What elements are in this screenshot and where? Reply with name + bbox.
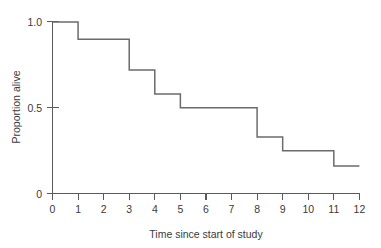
y-tick-label-1.0: 1.0: [27, 16, 42, 28]
x-tick-label-5: 5: [177, 203, 183, 215]
y-tick-label-0.5: 0.5: [27, 102, 42, 114]
x-axis-title: Time since start of study: [149, 228, 263, 240]
x-tick-label-11: 11: [328, 203, 339, 215]
x-tick-label-3: 3: [126, 203, 132, 215]
x-tick-label-9: 9: [280, 203, 286, 215]
x-tick-label-1: 1: [75, 203, 81, 215]
x-tick-label-2: 2: [101, 203, 107, 215]
x-tick-label-8: 8: [254, 203, 260, 215]
x-tick-label-0: 0: [50, 203, 56, 215]
survival-curve-chart: 1.0 0.5 0 0 1 2 3 4 5 6 7 8 9 10 11 12 P…: [0, 0, 381, 248]
x-tick-label-10: 10: [302, 203, 314, 215]
chart-figure: 1.0 0.5 0 0 1 2 3 4 5 6 7 8 9 10 11 12 P…: [0, 0, 381, 248]
x-tick-label-7: 7: [229, 203, 235, 215]
y-tick-label-0: 0: [36, 188, 42, 200]
x-tick-label-6: 6: [203, 203, 209, 215]
y-axis-title: Proportion alive: [10, 70, 22, 143]
x-tick-label-4: 4: [152, 203, 158, 215]
chart-background: [0, 0, 381, 248]
x-tick-label-12: 12: [354, 203, 366, 215]
